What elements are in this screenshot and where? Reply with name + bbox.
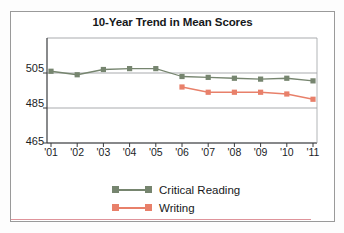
series-layer — [48, 66, 315, 102]
y-axis-tick-485: 485 — [12, 98, 44, 109]
legend-label-critical-reading: Critical Reading — [152, 184, 240, 196]
plot-area — [47, 38, 317, 143]
legend-swatch-critical-reading — [112, 184, 152, 196]
x-axis-tick-11: '11 — [298, 146, 328, 158]
legend-label-writing: Writing — [152, 202, 195, 214]
y-axis-tick-labels: 505 485 465 — [8, 38, 44, 143]
bottom-edge-artifact — [11, 219, 311, 220]
plot-svg — [47, 38, 317, 143]
axes — [43, 38, 317, 147]
legend-item-writing: Writing — [112, 200, 282, 216]
y-axis-tick-505: 505 — [12, 63, 44, 74]
gridlines — [47, 38, 317, 143]
chart-title: 10-Year Trend in Mean Scores — [10, 16, 335, 28]
x-axis-tick-labels: '01'02'03'04'05'06'07'08'09'10'11 — [47, 146, 317, 162]
legend-item-critical-reading: Critical Reading — [112, 182, 282, 198]
legend-swatch-writing — [112, 202, 152, 214]
chart-legend: Critical Reading Writing — [112, 182, 282, 218]
chart-figure: 10-Year Trend in Mean Scores 505 485 465… — [0, 0, 344, 233]
